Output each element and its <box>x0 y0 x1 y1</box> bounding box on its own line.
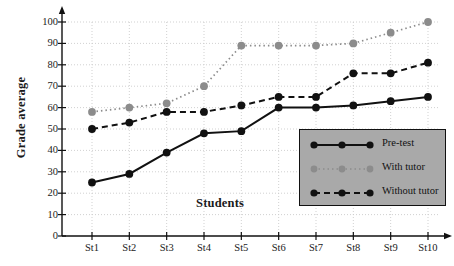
data-point-with-tutor <box>275 42 283 50</box>
data-point-without-tutor <box>349 69 357 77</box>
data-point-pre-test <box>424 93 432 101</box>
series-line-with-tutor <box>92 22 428 112</box>
legend-sample-pre-test <box>308 134 378 156</box>
legend-label-pre-test: Pre-test <box>382 137 414 148</box>
legend-item-pre-test: Pre-test <box>300 134 445 156</box>
data-point-without-tutor <box>88 125 96 133</box>
data-point-pre-test <box>200 129 208 137</box>
data-point-pre-test <box>349 102 357 110</box>
data-point-without-tutor <box>312 93 320 101</box>
data-point-without-tutor <box>424 59 432 67</box>
data-point-with-tutor <box>312 42 320 50</box>
data-point-with-tutor <box>424 18 432 26</box>
legend-sample-without-tutor <box>308 182 378 204</box>
data-point-with-tutor <box>88 108 96 116</box>
data-point-without-tutor <box>163 108 171 116</box>
data-point-pre-test <box>88 179 96 187</box>
data-point-pre-test <box>312 104 320 112</box>
data-point-without-tutor <box>200 108 208 116</box>
data-point-with-tutor <box>200 82 208 90</box>
chart-legend: Pre-test With tutor Without tutor <box>299 129 446 206</box>
data-point-without-tutor <box>387 69 395 77</box>
legend-sample-with-tutor <box>308 158 378 180</box>
data-point-pre-test <box>125 170 133 178</box>
legend-label-without-tutor: Without tutor <box>382 185 438 196</box>
data-point-with-tutor <box>349 40 357 48</box>
data-point-pre-test <box>237 127 245 135</box>
data-point-without-tutor <box>275 93 283 101</box>
legend-item-without-tutor: Without tutor <box>300 182 445 204</box>
data-point-without-tutor <box>125 119 133 127</box>
data-point-with-tutor <box>163 99 171 107</box>
data-point-pre-test <box>387 97 395 105</box>
data-point-with-tutor <box>387 29 395 37</box>
data-point-with-tutor <box>237 42 245 50</box>
y-axis-arrow <box>59 6 65 14</box>
legend-item-with-tutor: With tutor <box>300 158 445 180</box>
data-point-without-tutor <box>237 102 245 110</box>
data-point-pre-test <box>275 104 283 112</box>
data-point-with-tutor <box>125 104 133 112</box>
legend-label-with-tutor: With tutor <box>382 161 425 172</box>
data-point-pre-test <box>163 149 171 157</box>
x-axis-arrow <box>444 233 452 239</box>
line-chart: Grade average Students 01020304050607080… <box>0 0 454 266</box>
